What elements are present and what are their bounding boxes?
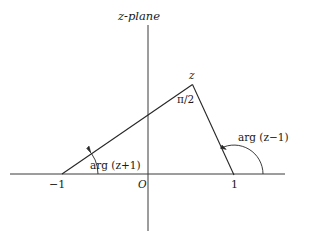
- apex-label-z: z: [189, 70, 195, 81]
- point-label-one: 1: [231, 179, 238, 190]
- diagram-canvas: [0, 0, 315, 238]
- origin-label: O: [138, 179, 147, 190]
- point-label-minus-one: −1: [49, 179, 65, 190]
- angle-arc-left-arrowhead: [87, 146, 91, 152]
- plane-title-text: z-plane: [118, 9, 160, 23]
- z-plane-figure: z-plane z π/2 O −1 1 arg (z+1) arg (z−1): [0, 0, 315, 238]
- segment-z-to-one: [193, 85, 235, 176]
- angle-label-arg-z-plus-1: arg (z+1): [90, 160, 141, 171]
- angle-arc-right-arrowhead: [221, 145, 227, 149]
- apex-angle-label: π/2: [177, 94, 194, 105]
- angle-label-arg-z-minus-1: arg (z−1): [238, 132, 289, 143]
- plane-title: z-plane: [118, 11, 160, 23]
